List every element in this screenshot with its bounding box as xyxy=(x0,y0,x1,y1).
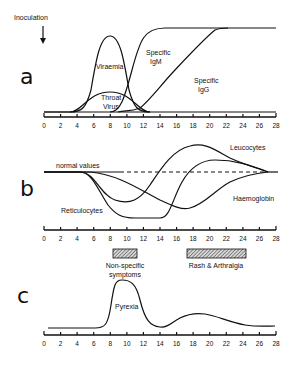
svg-text:6: 6 xyxy=(92,235,96,242)
svg-text:0: 0 xyxy=(42,235,46,242)
leucocytes-curve xyxy=(44,145,268,202)
svg-text:12: 12 xyxy=(140,235,148,242)
svg-text:4: 4 xyxy=(75,340,79,347)
svg-text:28: 28 xyxy=(272,340,280,347)
svg-text:4: 4 xyxy=(75,122,79,129)
igm-label-2: IgM xyxy=(150,58,162,66)
svg-text:20: 20 xyxy=(206,235,214,242)
nonspecific-symptoms-bar xyxy=(113,249,137,258)
svg-text:22: 22 xyxy=(223,340,231,347)
igm-curve xyxy=(110,28,276,112)
svg-text:26: 26 xyxy=(256,122,264,129)
axis-b: 0 2 4 6 8 10 12 14 16 18 20 22 24 26 28 xyxy=(42,226,280,242)
svg-text:20: 20 xyxy=(206,122,214,129)
panel-b-letter: b xyxy=(20,176,34,201)
svg-text:14: 14 xyxy=(156,340,164,347)
svg-text:0: 0 xyxy=(42,122,46,129)
haemoglobin-curve xyxy=(44,172,268,209)
svg-text:4: 4 xyxy=(75,235,79,242)
svg-text:12: 12 xyxy=(140,122,148,129)
svg-text:16: 16 xyxy=(173,235,181,242)
figure-canvas: Inoculation a Viraemia Throat Virus Spec… xyxy=(0,0,297,365)
svg-text:18: 18 xyxy=(189,235,197,242)
inoculation-arrow-icon xyxy=(40,26,46,44)
pyrexia-label: Pyrexia xyxy=(115,303,138,311)
svg-text:6: 6 xyxy=(92,340,96,347)
svg-text:16: 16 xyxy=(173,340,181,347)
viraemia-curve xyxy=(44,36,150,112)
viraemia-label: Viraemia xyxy=(96,63,124,70)
svg-text:24: 24 xyxy=(239,235,247,242)
svg-text:14: 14 xyxy=(156,122,164,129)
svg-text:2: 2 xyxy=(59,122,63,129)
panel-a-curves xyxy=(44,28,276,112)
svg-text:24: 24 xyxy=(239,340,247,347)
igm-label-1: Specific xyxy=(146,49,171,57)
igg-curve xyxy=(118,28,228,112)
svg-text:2: 2 xyxy=(59,235,63,242)
svg-text:22: 22 xyxy=(223,235,231,242)
svg-text:24: 24 xyxy=(239,122,247,129)
igg-label-1: Specific xyxy=(194,77,219,85)
svg-text:18: 18 xyxy=(189,122,197,129)
svg-text:10: 10 xyxy=(123,122,131,129)
nonspecific-label-2: symptoms xyxy=(109,271,141,279)
leucocytes-label: Leucocytes xyxy=(230,144,266,152)
throat-virus-label-1: Throat xyxy=(101,94,121,101)
svg-text:12: 12 xyxy=(140,340,148,347)
haemoglobin-label: Haemoglobin xyxy=(233,195,274,203)
reticulocytes-label: Reticulocytes xyxy=(61,207,103,215)
svg-text:6: 6 xyxy=(92,122,96,129)
svg-text:28: 28 xyxy=(272,122,280,129)
svg-text:8: 8 xyxy=(108,235,112,242)
svg-text:8: 8 xyxy=(108,122,112,129)
svg-text:10: 10 xyxy=(123,340,131,347)
inoculation-label: Inoculation xyxy=(14,14,48,21)
svg-text:10: 10 xyxy=(123,235,131,242)
svg-text:2: 2 xyxy=(59,340,63,347)
svg-text:20: 20 xyxy=(206,340,214,347)
pyrexia-curve xyxy=(48,280,275,328)
svg-text:26: 26 xyxy=(256,235,264,242)
panel-a-letter: a xyxy=(20,64,33,89)
nonspecific-label-1: Non-specific xyxy=(106,262,145,270)
svg-text:22: 22 xyxy=(223,122,231,129)
axis-a: 0 2 4 6 8 10 12 14 16 18 20 22 24 26 28 xyxy=(42,113,280,129)
panel-c-letter: c xyxy=(17,283,29,308)
igg-label-2: IgG xyxy=(198,86,209,94)
svg-text:14: 14 xyxy=(156,235,164,242)
throat-virus-label-2: Virus xyxy=(103,103,119,110)
axis-c: 0 2 4 6 8 10 12 14 16 18 20 22 24 26 28 xyxy=(42,331,280,347)
svg-text:28: 28 xyxy=(272,235,280,242)
normal-values-label: normal values xyxy=(56,162,100,169)
svg-text:18: 18 xyxy=(189,340,197,347)
svg-text:26: 26 xyxy=(256,340,264,347)
svg-text:0: 0 xyxy=(42,340,46,347)
rash-label: Rash & Arthralgia xyxy=(189,262,244,270)
svg-text:8: 8 xyxy=(108,340,112,347)
rash-arthralgia-bar xyxy=(187,249,246,258)
svg-text:16: 16 xyxy=(173,122,181,129)
